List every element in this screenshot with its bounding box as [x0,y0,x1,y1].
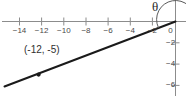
point-marker [37,73,41,77]
x-tick-label-minus10: −10 [57,27,71,35]
x-tick-label-minus12: −12 [35,27,49,35]
x-tick-label-zero: 0 [168,27,172,35]
x-tick-label-minus8: −8 [81,27,90,35]
theta-angle-label: θ [152,0,158,13]
x-tick-label-minus14: −14 [13,27,27,35]
graph-figure: −14 −12 −10 −8 −6 −4 −2 0 −2 −4 −6 (-12,… [0,0,186,96]
x-tick-label-minus2: −2 [148,27,157,35]
y-tick-label-minus4: −4 [166,60,175,68]
x-tick-label-minus4: −4 [126,27,135,35]
point-label: (-12, -5) [24,45,60,55]
y-tick-label-minus6: −6 [166,81,175,89]
y-tick-label-minus2: −2 [166,39,175,47]
x-tick-label-minus6: −6 [104,27,113,35]
